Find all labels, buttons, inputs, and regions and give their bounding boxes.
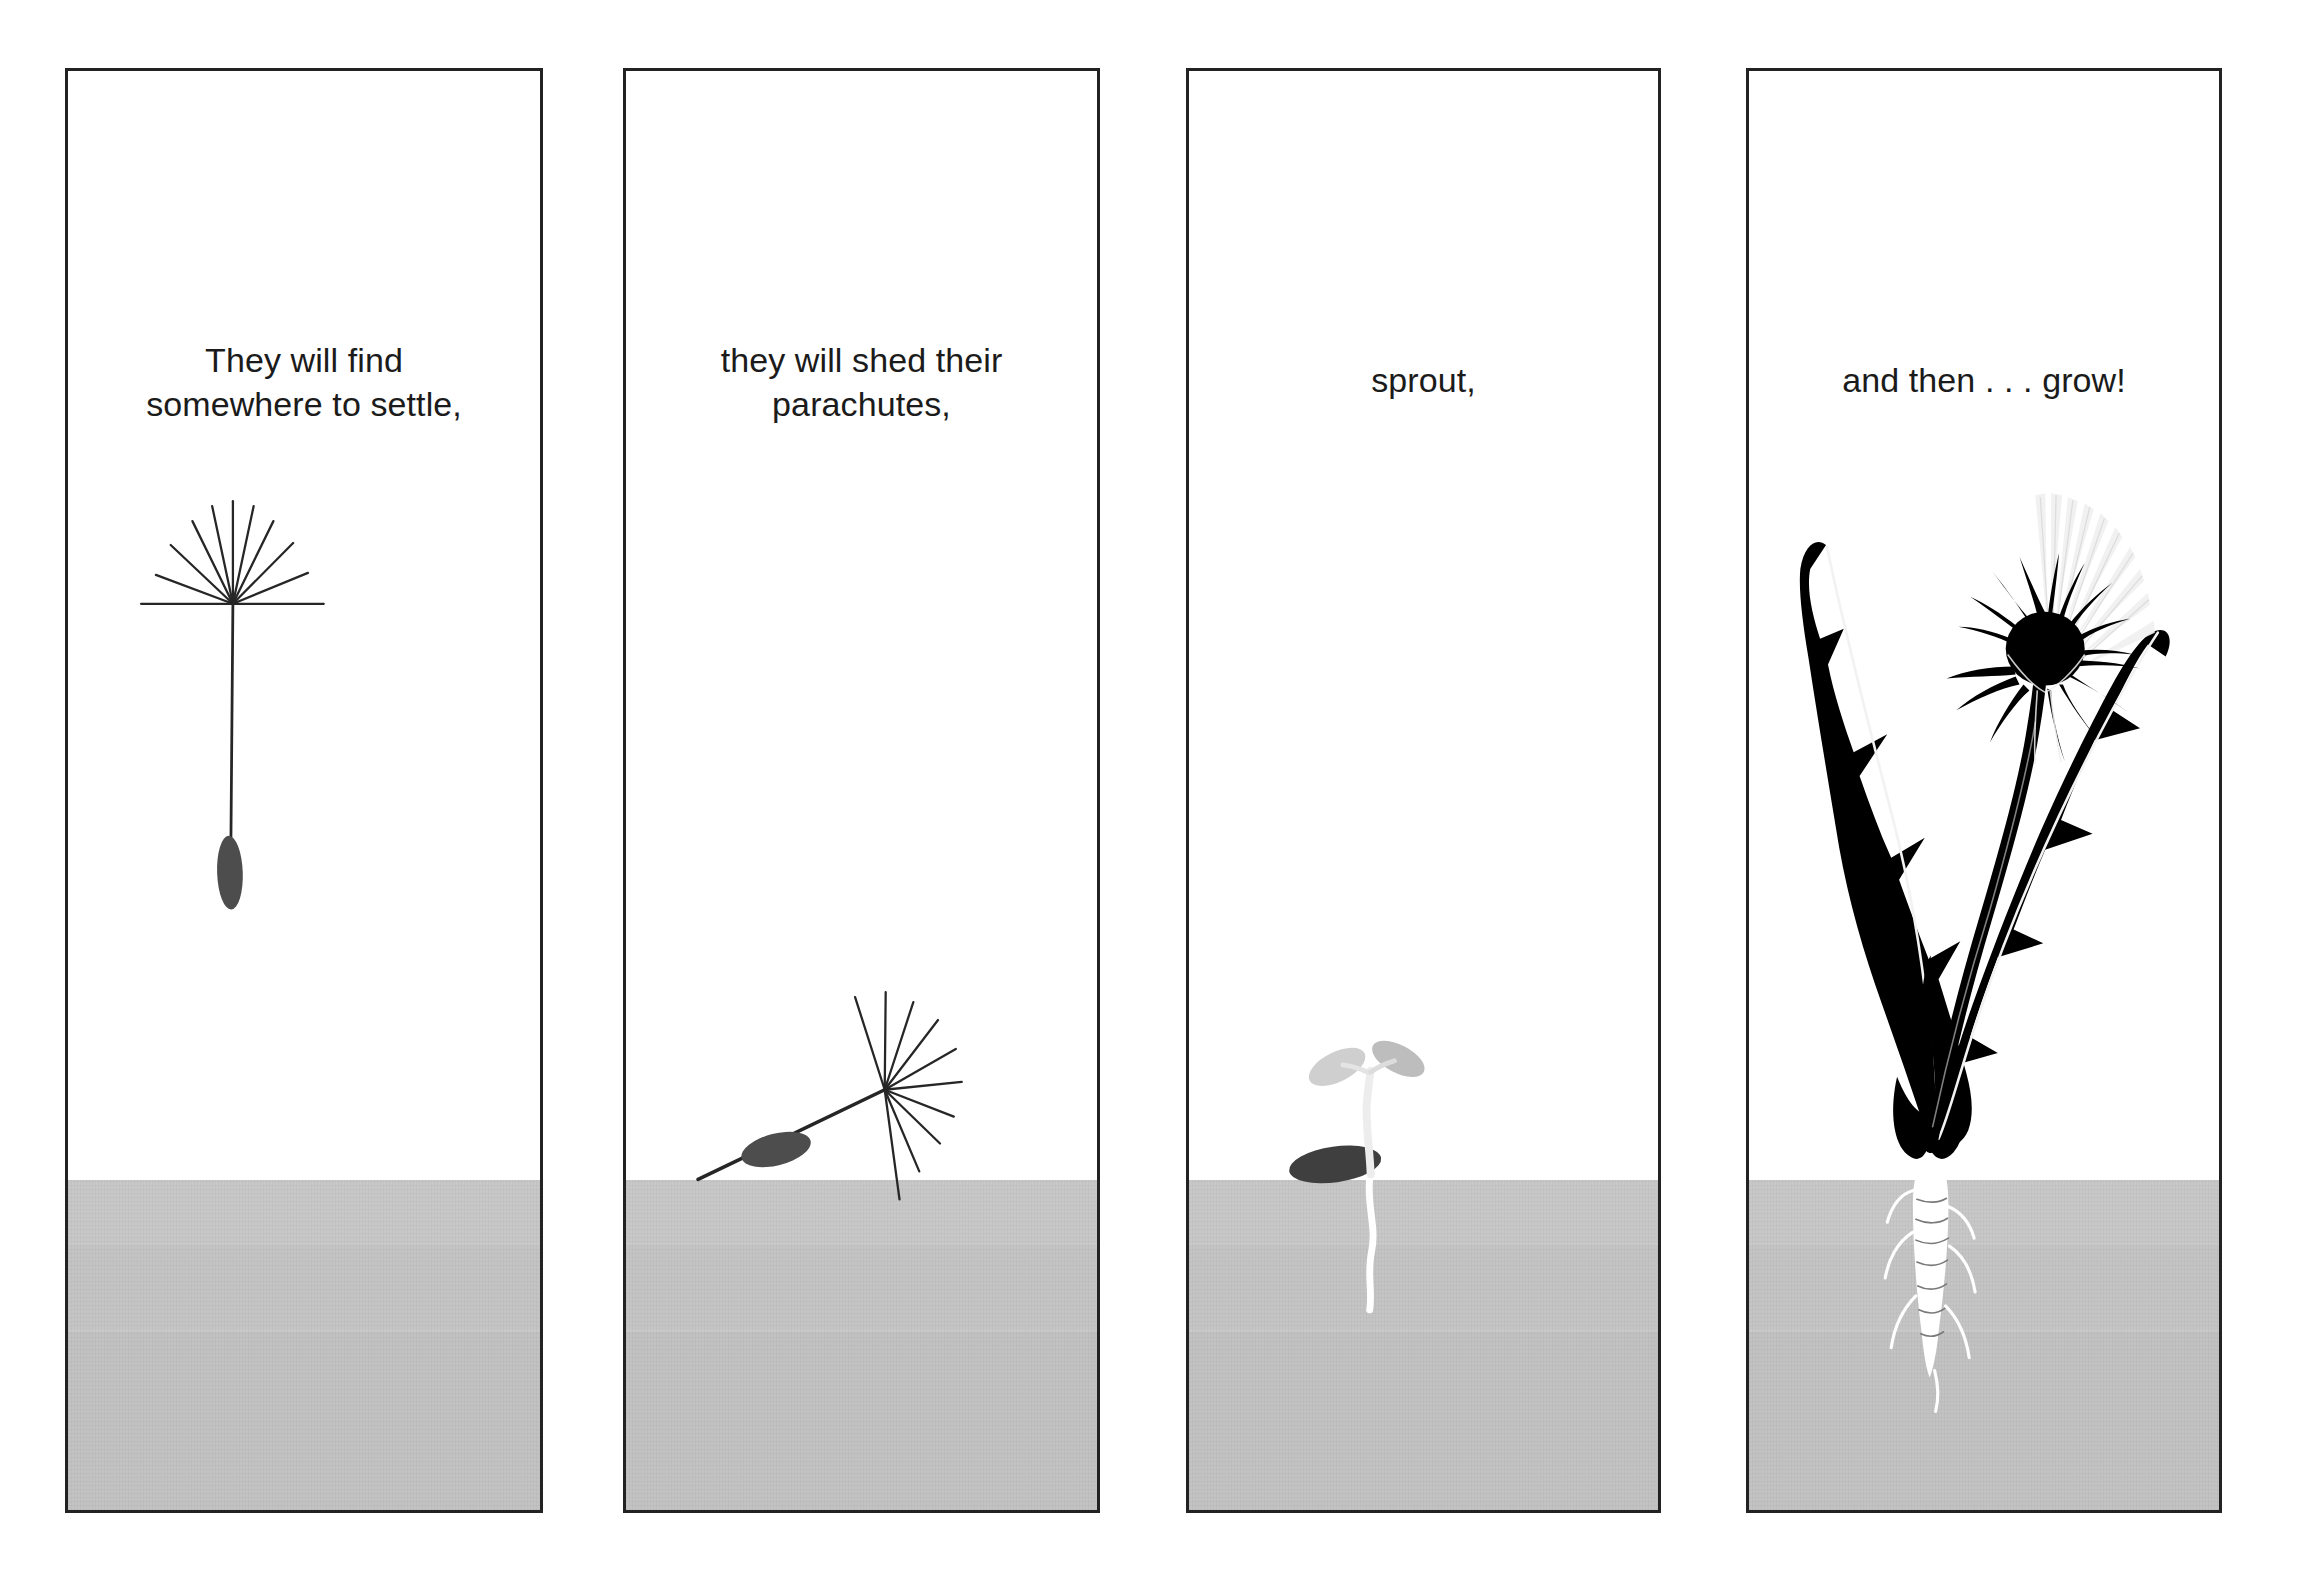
panel-3-soil	[1189, 1180, 1658, 1510]
panel-2: they will shed their parachutes,	[623, 68, 1100, 1513]
panel-3-caption: sprout,	[1189, 359, 1658, 403]
panel-4-caption: and then . . . grow!	[1749, 359, 2219, 403]
page-canvas: They will find somewhere to settle,	[0, 0, 2298, 1585]
panel-1-soil	[68, 1180, 540, 1510]
panel-1-caption: They will find somewhere to settle,	[68, 339, 540, 426]
panel-4: and then . . . grow!	[1746, 68, 2222, 1513]
panel-2-soil	[626, 1180, 1097, 1510]
panel-2-caption: they will shed their parachutes,	[626, 339, 1097, 426]
panel-4-soil	[1749, 1180, 2219, 1510]
panel-1: They will find somewhere to settle,	[65, 68, 543, 1513]
panel-3: sprout,	[1186, 68, 1661, 1513]
